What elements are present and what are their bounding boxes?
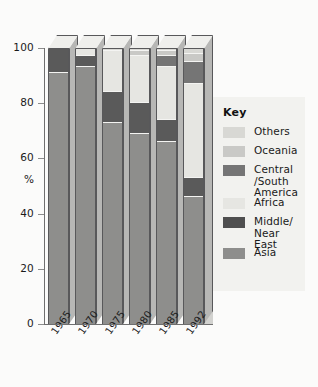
bar-segment [157, 142, 176, 324]
legend-title: Key [223, 106, 247, 119]
segment-divider [184, 53, 203, 54]
bar-side-1992 [204, 35, 213, 324]
bar-segment [184, 84, 203, 178]
bar-face-1985 [156, 48, 177, 324]
legend-item-label: Oceania [254, 145, 298, 157]
bar-face-1980 [129, 48, 150, 324]
bar-face-1975 [102, 48, 123, 324]
segment-divider [130, 55, 149, 56]
segment-divider [184, 177, 203, 178]
bar-segment [103, 123, 122, 324]
bar-1980[interactable] [129, 48, 150, 324]
legend-swatch-icon [223, 146, 245, 157]
legend-item-others[interactable]: Others [223, 126, 301, 138]
y-axis-tick-label: 100 [8, 41, 34, 53]
bar-segment [49, 48, 68, 73]
legend-item-central-south-america[interactable]: Central /South America [223, 164, 301, 199]
segment-divider [157, 141, 176, 142]
segment-divider [157, 66, 176, 67]
bar-segment [157, 67, 176, 119]
bar-segment [130, 103, 149, 133]
segment-divider [76, 55, 95, 56]
legend-swatch-icon [223, 198, 245, 209]
legend-item-africa[interactable]: Africa [223, 197, 301, 209]
segment-divider [103, 91, 122, 92]
y-axis-tick-label: 80 [8, 96, 34, 108]
bar-segment [76, 67, 95, 324]
legend-swatch-icon [223, 127, 245, 138]
segment-divider [157, 119, 176, 120]
bar-segment [103, 51, 122, 92]
bar-segment [49, 73, 68, 324]
bar-1965[interactable] [48, 48, 69, 324]
legend-item-label: Asia [254, 247, 276, 259]
legend-swatch-icon [223, 248, 245, 259]
chart-root: 020406080100%196519701975198019851992 Ke… [0, 0, 318, 387]
bar-face-1965 [48, 48, 69, 324]
segment-divider [157, 50, 176, 51]
legend-swatch-icon [223, 165, 245, 176]
segment-divider [184, 196, 203, 197]
bar-segment [157, 120, 176, 142]
segment-divider [184, 61, 203, 62]
bar-1975[interactable] [102, 48, 123, 324]
legend-item-asia[interactable]: Asia [223, 247, 301, 259]
segment-divider [103, 50, 122, 51]
segment-divider [76, 66, 95, 67]
segment-divider [103, 122, 122, 123]
bar-1992[interactable] [183, 48, 204, 324]
bar-segment [103, 92, 122, 122]
segment-divider [130, 102, 149, 103]
y-axis-unit-label: % [8, 173, 34, 185]
y-axis-tick-label: 0 [8, 317, 34, 329]
y-axis-tick-label: 40 [8, 207, 34, 219]
legend-item-label: Central /South America [254, 164, 298, 199]
segment-divider [130, 133, 149, 134]
legend-item-label: Africa [254, 197, 285, 209]
legend-swatch-icon [223, 217, 245, 228]
segment-divider [184, 83, 203, 84]
segment-divider [49, 72, 68, 73]
x-axis-line [44, 324, 213, 325]
bar-segment [184, 178, 203, 197]
legend-item-oceania[interactable]: Oceania [223, 145, 301, 157]
chart-legend: KeyOthersOceaniaCentral /South AmericaAf… [213, 97, 305, 291]
y-axis-line [44, 48, 45, 325]
bar-face-1992 [183, 48, 204, 324]
y-axis-tick-label: 60 [8, 151, 34, 163]
bar-face-1970 [75, 48, 96, 324]
bar-1985[interactable] [156, 48, 177, 324]
y-axis-tick-label: 20 [8, 262, 34, 274]
bar-segment [184, 197, 203, 324]
segment-divider [130, 50, 149, 51]
bar-segment [130, 56, 149, 103]
bar-segment [130, 134, 149, 324]
segment-divider [157, 55, 176, 56]
bar-segment [184, 62, 203, 84]
legend-item-label: Others [254, 126, 290, 138]
bar-1970[interactable] [75, 48, 96, 324]
